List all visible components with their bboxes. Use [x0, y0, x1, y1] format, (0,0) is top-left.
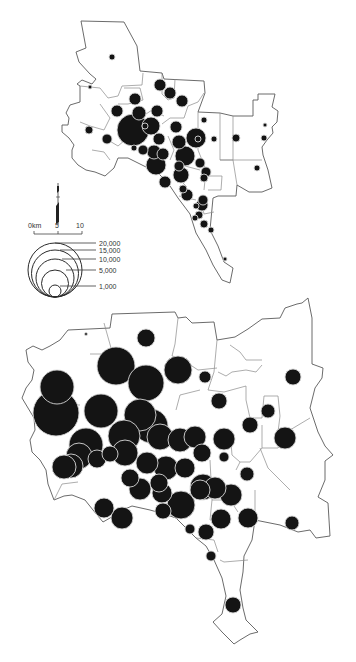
legend: 20,000 15,000 10,000 5,000 1,000: [28, 240, 121, 297]
population-circle: [200, 174, 208, 182]
population-circle: [285, 369, 301, 385]
population-circle: [159, 176, 171, 188]
population-circle: [151, 105, 163, 117]
population-circle: [137, 329, 155, 347]
population-circle: [52, 455, 76, 479]
population-circle: [174, 161, 184, 171]
population-circle: [198, 524, 214, 540]
population-circle: [198, 195, 208, 205]
scale-label-5: 5: [55, 222, 59, 229]
population-circle: [85, 126, 93, 134]
population-circle: [176, 95, 188, 107]
population-circle: [136, 452, 158, 474]
population-circle: [211, 393, 227, 409]
population-circle: [254, 165, 260, 171]
population-circle: [102, 134, 112, 144]
population-circle: [121, 469, 139, 487]
population-circle: [208, 227, 214, 233]
legend-label-10000: 10,000: [99, 256, 121, 263]
population-circle: [131, 145, 137, 151]
population-circle: [263, 123, 267, 127]
population-circle: [164, 356, 192, 384]
map-canvas: 0km 5 10 20,000 15,000 10,000 5,000 1,00…: [0, 0, 356, 662]
population-circle: [109, 54, 115, 60]
population-circle: [150, 474, 168, 492]
scale-bar: 0km 5 10: [28, 222, 84, 234]
legend-label-1000: 1,000: [99, 283, 117, 290]
population-circle: [211, 509, 231, 529]
population-circle: [88, 85, 92, 89]
legend-label-5000: 5,000: [99, 267, 117, 274]
population-circle: [172, 135, 186, 149]
population-circle: [211, 136, 217, 142]
population-circle: [111, 507, 133, 529]
population-circle: [206, 551, 216, 561]
population-circle: [240, 467, 254, 481]
population-circle: [157, 148, 169, 160]
population-circle: [285, 516, 299, 530]
population-circle: [175, 458, 195, 478]
population-circle: [85, 333, 88, 336]
legend-circle-10000: [36, 259, 74, 297]
population-circle: [274, 427, 296, 449]
population-circle: [242, 417, 258, 433]
population-circle: [170, 121, 182, 133]
population-circle: [193, 203, 199, 209]
lower-map: [22, 298, 333, 644]
population-circle: [223, 257, 227, 261]
population-circle: [132, 106, 146, 120]
population-circle: [154, 79, 166, 91]
population-circle: [129, 93, 141, 105]
population-circle: [111, 105, 123, 117]
upper-map: [62, 21, 278, 283]
legend-label-20000: 20,000: [99, 240, 121, 247]
population-circle: [128, 365, 164, 401]
scale-label-10: 10: [76, 222, 84, 229]
population-circle: [192, 215, 198, 221]
population-circle: [185, 524, 195, 534]
population-circle: [200, 220, 208, 228]
population-circle: [261, 135, 267, 141]
legend-circle-1000: [49, 285, 61, 297]
legend-label-15000: 15,000: [99, 247, 121, 254]
population-circle: [232, 134, 240, 142]
population-circle: [201, 117, 207, 123]
population-circle: [213, 428, 235, 450]
population-circle: [195, 136, 201, 142]
population-circle: [40, 370, 74, 404]
population-circle: [142, 123, 148, 129]
population-circle: [179, 185, 187, 193]
population-circle: [219, 452, 229, 462]
population-circle: [155, 503, 171, 519]
population-circle: [199, 371, 211, 383]
population-circle: [102, 446, 118, 462]
upper-map-boundary: [62, 21, 278, 283]
population-circle: [153, 133, 165, 145]
population-circle: [225, 597, 241, 613]
population-circle: [84, 394, 118, 428]
population-circle: [261, 404, 275, 418]
population-circle: [193, 444, 211, 462]
population-circle: [195, 158, 205, 168]
legend-circle-15000: [32, 250, 79, 297]
population-circle: [94, 498, 114, 518]
population-circle: [238, 508, 258, 528]
population-circle: [164, 87, 176, 99]
scale-label-0: 0km: [28, 222, 41, 229]
legend-circle-5000: [42, 270, 69, 297]
population-circle: [190, 480, 210, 500]
north-arrow-icon: [56, 183, 60, 225]
population-circle: [138, 145, 148, 155]
